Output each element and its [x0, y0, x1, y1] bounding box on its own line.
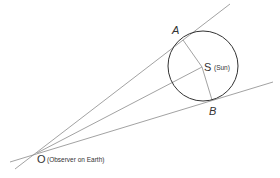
- tangent-line-ob: [10, 82, 273, 162]
- label-a: A: [171, 24, 179, 36]
- sun-angular-diameter-diagram: A B S (Sun) O (Observer on Earth): [0, 0, 280, 178]
- tangent-line-oa: [15, 4, 230, 169]
- line-os: [37, 67, 202, 153]
- radius-sa: [183, 40, 202, 67]
- label-sun-note: (Sun): [214, 64, 230, 72]
- label-b: B: [209, 105, 216, 117]
- label-observer-note: (Observer on Earth): [47, 156, 104, 164]
- label-o: O: [37, 153, 46, 165]
- label-s: S: [204, 61, 211, 73]
